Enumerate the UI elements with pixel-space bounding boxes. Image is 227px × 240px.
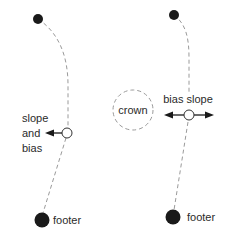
left-footer-node[interactable]: [35, 213, 50, 228]
right-chain: bias slope footer: [163, 10, 215, 225]
left-top-node[interactable]: [33, 14, 43, 24]
right-control-node[interactable]: [184, 110, 194, 120]
right-footer-label: footer: [187, 211, 215, 223]
left-footer-label: footer: [53, 214, 81, 226]
left-control-node[interactable]: [62, 128, 72, 138]
right-upper-curve: [174, 15, 189, 92]
left-control-label-line-2: and: [22, 127, 40, 139]
left-control-label-line-1: slope: [22, 112, 48, 124]
left-lower-line: [43, 138, 66, 213]
arrow-left-icon: [45, 130, 62, 137]
crown-group: crown: [113, 90, 153, 130]
right-control-label: bias slope: [163, 93, 213, 105]
left-control-label-line-3: bias: [22, 142, 43, 154]
right-lower-line: [174, 122, 188, 210]
crown-label: crown: [118, 104, 147, 116]
diagram-canvas: slope and bias footer crown bias slope f…: [0, 0, 227, 240]
right-footer-node[interactable]: [166, 210, 181, 225]
right-top-node[interactable]: [169, 10, 179, 20]
left-chain: slope and bias footer: [22, 14, 81, 228]
